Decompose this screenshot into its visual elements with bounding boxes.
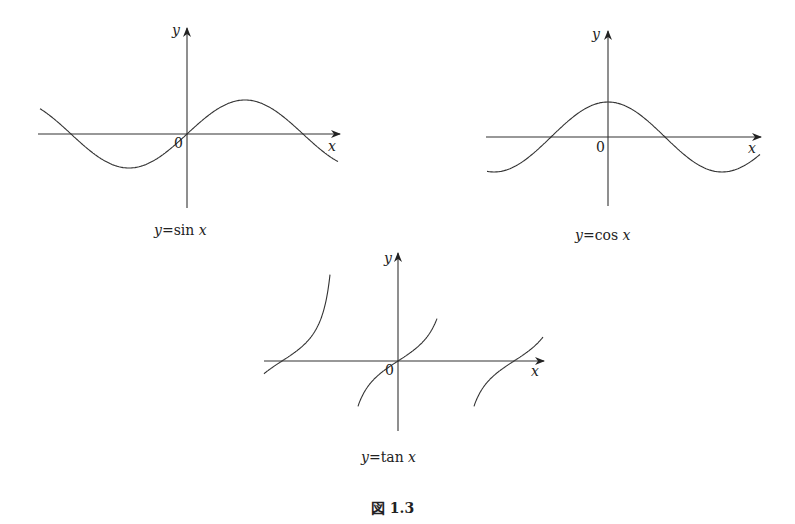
figure-canvas — [0, 0, 795, 524]
tan-x-label: x — [531, 363, 539, 379]
sin-plot — [38, 28, 340, 208]
sin-caption-eq: =sin — [162, 222, 199, 238]
tan-y-label: y — [384, 250, 392, 266]
figure-caption: 図 1.3 — [371, 497, 414, 517]
cos-origin-label: 0 — [596, 139, 605, 155]
cos-caption-eq: =cos — [583, 227, 623, 243]
tan-origin-label: 0 — [385, 362, 394, 378]
cos-caption: y=cos x — [575, 227, 630, 243]
cos-caption-var: y — [575, 227, 583, 243]
cos-caption-x: x — [623, 227, 631, 243]
tan-plot — [264, 253, 544, 431]
tan-caption-eq: =tan — [369, 449, 408, 465]
sin-y-label: y — [172, 22, 180, 38]
sin-caption-var: y — [154, 222, 162, 238]
cos-x-label: x — [748, 140, 756, 156]
sin-caption-x: x — [199, 222, 207, 238]
sin-origin-label: 0 — [174, 135, 183, 151]
cos-y-label: y — [592, 26, 600, 42]
tan-caption-x: x — [408, 449, 416, 465]
cos-plot — [486, 31, 761, 206]
sin-caption: y=sin x — [154, 222, 207, 238]
tan-curve — [264, 275, 543, 407]
tan-caption-var: y — [361, 449, 369, 465]
sin-x-label: x — [328, 138, 336, 154]
tan-caption: y=tan x — [361, 449, 416, 465]
